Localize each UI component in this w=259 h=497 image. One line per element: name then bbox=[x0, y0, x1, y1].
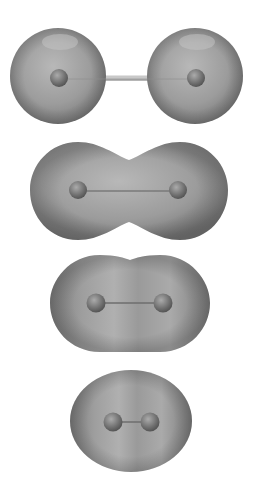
nucleus-left bbox=[104, 413, 123, 432]
highlight bbox=[179, 34, 215, 50]
nucleus-right bbox=[154, 294, 173, 313]
nucleus-right bbox=[141, 413, 160, 432]
nucleus-left bbox=[87, 294, 106, 313]
ellipsoid-shade bbox=[70, 370, 192, 472]
panel-dumbbell bbox=[30, 142, 228, 240]
highlight bbox=[42, 34, 78, 50]
panel-ellipsoid bbox=[70, 370, 192, 472]
panel-capsule bbox=[50, 255, 210, 352]
nucleus-right bbox=[169, 181, 187, 199]
nucleus-left bbox=[50, 69, 68, 87]
panel-separated-atoms bbox=[10, 28, 243, 124]
orbital-diagram bbox=[0, 0, 259, 497]
nucleus-left bbox=[69, 181, 87, 199]
nucleus-right bbox=[187, 69, 205, 87]
